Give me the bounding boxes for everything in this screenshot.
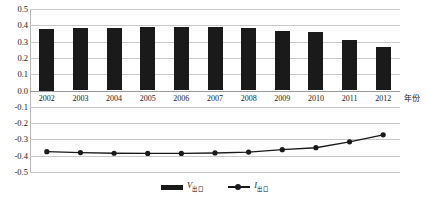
chart-container: 0.50.40.30.20.10.0-0.1-0.2-0.3-0.4-0.5 2… [0,0,430,202]
legend-bar-swatch-icon [161,185,183,190]
line-marker [111,151,116,156]
line-marker [280,147,285,152]
legend-label-line-sub: 出口 [257,186,269,192]
line-marker [179,151,184,156]
line-marker [347,139,352,144]
line-marker [212,150,217,155]
x-axis-tick-label: 2009 [265,95,299,103]
y-axis-tick-label: 0.2 [0,54,28,63]
y-axis-tick-label: -0.5 [0,168,28,177]
line-marker [313,145,318,150]
y-axis-tick-label: -0.3 [0,135,28,144]
y-axis-tick-labels: 0.50.40.30.20.10.0-0.1-0.2-0.3-0.4-0.5 [0,9,28,172]
y-axis-tick-label: -0.2 [0,119,28,128]
y-axis-tick-label: 0.0 [0,87,28,96]
x-axis-tick-label: 2007 [198,95,232,103]
x-axis-tick-label: 2004 [97,95,131,103]
y-axis-tick-label: -0.1 [0,103,28,112]
y-axis-tick-label: 0.3 [0,38,28,47]
x-axis-tick-label: 2011 [333,95,367,103]
x-axis-tick-label: 2006 [164,95,198,103]
x-axis-title: 年份 [404,95,420,103]
line-marker [44,149,49,154]
line-marker [145,151,150,156]
x-axis-tick-label: 2010 [299,95,333,103]
x-axis-tick-label: 2008 [232,95,266,103]
x-axis-tick-label: 2003 [63,95,97,103]
gridline [30,172,400,173]
legend-item-line: I出口 [228,181,269,194]
x-axis-tick-label: 2005 [131,95,165,103]
legend-label-bar-sub: 出口 [192,186,204,192]
y-axis-tick-label: 0.1 [0,70,28,79]
y-axis-tick-label: 0.5 [0,5,28,14]
line-marker [78,150,83,155]
line-marker [246,150,251,155]
legend-label-line: I出口 [254,181,269,194]
legend-item-bar: V出口 [161,181,204,194]
y-axis-tick-label: 0.4 [0,21,28,30]
plot-area: 2002200320042005200620072008200920102011… [30,9,400,172]
line-marker [381,132,386,137]
legend-line-marker-icon [228,184,250,190]
y-axis-tick-label: -0.4 [0,152,28,161]
chart-legend: V出口 I出口 [0,181,430,194]
x-axis-tick-label: 2012 [366,95,400,103]
x-axis-tick-label: 2002 [30,95,64,103]
line-series [30,9,400,172]
legend-label-bar: V出口 [187,181,204,194]
